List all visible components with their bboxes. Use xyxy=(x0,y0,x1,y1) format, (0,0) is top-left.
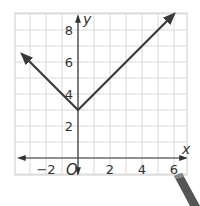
pencil-decoration-icon xyxy=(174,173,200,206)
x-tick-label: −2 xyxy=(36,162,55,177)
x-axis-label: x xyxy=(181,141,191,157)
y-tick-label: 2 xyxy=(65,119,73,134)
y-axis-label: y xyxy=(82,11,92,27)
origin-label: O xyxy=(66,161,78,179)
x-tick-label: 6 xyxy=(170,162,178,177)
x-tick-label: 2 xyxy=(106,162,114,177)
y-tick-label: 6 xyxy=(65,55,73,70)
x-tick-label: 4 xyxy=(138,162,146,177)
absolute-value-graph: −22462468xyO xyxy=(0,0,200,206)
grid-lines xyxy=(15,13,187,175)
y-tick-label: 8 xyxy=(65,23,73,38)
